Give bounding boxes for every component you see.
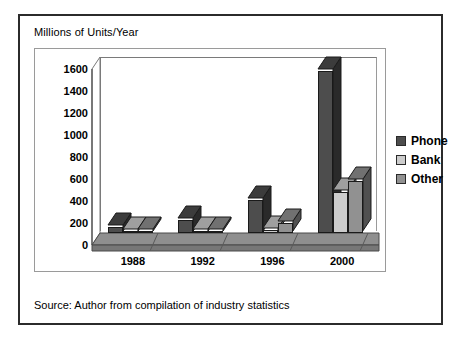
x-axis-ticks: 1988199219962000 [35,49,385,271]
legend-label-other: Other [411,172,443,186]
chart-title: Millions of Units/Year [34,26,139,38]
x-tick-label-1992: 1992 [190,255,214,267]
chart-legend: PhoneBankOther [396,134,462,191]
x-tick-label-1988: 1988 [121,255,145,267]
legend-label-bank: Bank [411,153,440,167]
legend-label-phone: Phone [411,134,448,148]
plot-area: 02004006008001000120014001600 1988199219… [34,48,386,272]
legend-item-bank: Bank [396,153,462,167]
source-caption: Source: Author from compilation of indus… [34,299,290,311]
x-tick-label-1996: 1996 [260,255,284,267]
legend-swatch-other [396,174,406,184]
legend-swatch-phone [396,136,406,146]
x-tick-label-2000: 2000 [330,255,354,267]
legend-swatch-bank [396,155,406,165]
figure-frame: Millions of Units/Year 02004006008001000… [18,14,443,325]
legend-item-phone: Phone [396,134,462,148]
legend-item-other: Other [396,172,462,186]
